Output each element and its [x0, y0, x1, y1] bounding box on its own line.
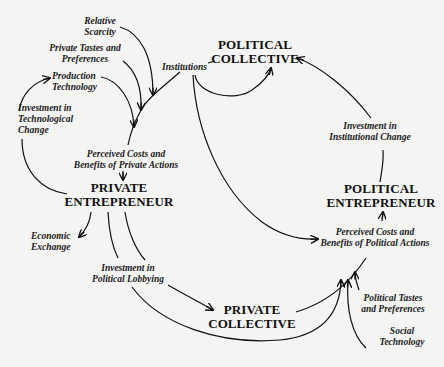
tech-change-loop-lower — [22, 139, 67, 194]
label-institutions: Institutions — [162, 62, 207, 73]
label-perceived-political: Perceived Costs and Benefits of Politica… — [320, 227, 429, 249]
node-private-collective: PRIVATE COLLECTIVE — [208, 303, 296, 331]
social-technology-line1: Social — [379, 326, 424, 337]
political-entrepreneur-line1: POLITICAL — [327, 182, 436, 196]
node-political-entrepreneur: POLITICAL ENTREPRENEUR — [327, 182, 436, 210]
political-collective-line1: POLITICAL — [211, 38, 299, 52]
investment-tech-change-line3: Change — [18, 125, 73, 136]
political-entrepreneur-line2: ENTREPRENEUR — [327, 196, 436, 210]
perceived-private-line2: Benefits of Private Actions — [74, 160, 178, 171]
relative-scarcity-line2: Scarcity — [84, 27, 116, 38]
perceived-private-line1: Perceived Costs and — [74, 149, 178, 160]
political-costs-to-entrepreneur-arrow — [382, 212, 383, 221]
political-tastes-line2: and Preferences — [361, 304, 425, 315]
production-technology-line2: Technology — [52, 82, 97, 93]
label-investment-tech-change: Investment in Technological Change — [18, 103, 73, 136]
investment-tech-change-line2: Technological — [18, 114, 73, 125]
entrepreneur-to-lobbying-line-1 — [108, 212, 118, 258]
institutional-to-political-collective-arrow — [297, 58, 371, 118]
private-tastes-arrow — [123, 61, 141, 110]
investment-lobbying-line2: Political Lobbying — [92, 274, 164, 285]
production-technology-line1: Production — [52, 71, 97, 82]
label-political-tastes: Political Tastes and Preferences — [361, 293, 425, 315]
node-political-collective: POLITICAL COLLECTIVE — [211, 38, 299, 66]
political-tastes-line1: Political Tastes — [361, 293, 425, 304]
investment-lobbying-line1: Investment in — [92, 263, 164, 274]
label-perceived-private: Perceived Costs and Benefits of Private … — [74, 149, 178, 171]
economic-exchange-line2: Exchange — [31, 242, 71, 253]
economic-exchange-line1: Economic — [31, 231, 71, 242]
entrepreneur-to-lobbying-line-2 — [125, 212, 145, 260]
lobbying-to-private-collective-arrow — [168, 285, 213, 310]
private-collective-line2: COLLECTIVE — [208, 317, 296, 331]
relative-scarcity-arrow — [120, 27, 153, 95]
private-collective-line1: PRIVATE — [208, 303, 296, 317]
political-tastes-arrow — [355, 272, 359, 290]
investment-institutional-line1: Investment in — [329, 121, 411, 132]
political-collective-line2: COLLECTIVE — [211, 52, 299, 66]
label-investment-lobbying: Investment in Political Lobbying — [92, 263, 164, 285]
private-tastes-line1: Private Tastes and — [49, 43, 120, 54]
private-tastes-line2: Preferences — [49, 54, 120, 65]
entrepreneur-to-institutional-line — [380, 150, 383, 182]
relative-scarcity-line1: Relative — [84, 16, 116, 27]
private-entrepreneur-line2: ENTREPRENEUR — [65, 195, 174, 209]
institutions-text: Institutions — [162, 62, 207, 73]
perceived-political-line1: Perceived Costs and — [320, 227, 429, 238]
label-investment-institutional: Investment in Institutional Change — [329, 121, 411, 143]
investment-institutional-line2: Institutional Change — [329, 132, 411, 143]
label-social-technology: Social Technology — [379, 326, 424, 348]
label-relative-scarcity: Relative Scarcity — [84, 16, 116, 38]
node-private-entrepreneur: PRIVATE ENTREPRENEUR — [65, 181, 174, 209]
institutions-to-political-costs-arrow — [193, 75, 318, 239]
social-technology-line2: Technology — [379, 337, 424, 348]
private-collective-to-political-costs-line — [296, 258, 366, 312]
perceived-political-line2: Benefits of Political Actions — [320, 238, 429, 249]
economic-exchange-arrow — [79, 212, 91, 237]
investment-tech-change-line1: Investment in — [18, 103, 73, 114]
private-entrepreneur-line1: PRIVATE — [65, 181, 174, 195]
production-technology-arrow — [101, 77, 134, 127]
institutions-to-private-costs-line — [128, 72, 180, 145]
label-economic-exchange: Economic Exchange — [31, 231, 71, 253]
label-private-tastes: Private Tastes and Preferences — [49, 43, 120, 65]
label-production-technology: Production Technology — [52, 71, 97, 93]
